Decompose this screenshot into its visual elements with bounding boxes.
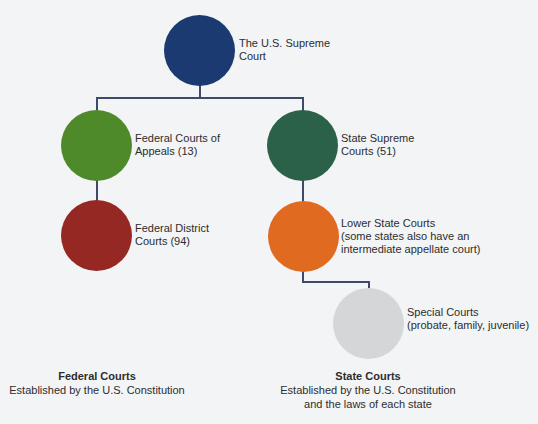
supreme-court-label: The U.S. Supreme Court [239,37,330,63]
label-line: Federal Courts of [135,132,220,145]
state-caption-subtitle-2: and the laws of each state [268,397,468,411]
federal-appeals-node [61,110,132,181]
lower-state-node [268,201,339,272]
federal-caption-subtitle: Established by the U.S. Constitution [2,383,192,397]
state-courts-caption: State Courts Established by the U.S. Con… [268,369,468,411]
federal-appeals-label: Federal Courts of Appeals (13) [135,132,220,158]
label-line: Special Courts [407,306,529,319]
label-line: Court [239,50,330,63]
label-line: (probate, family, juvenile) [407,319,529,332]
connector-lower-horizontal [302,281,370,283]
special-courts-label: Special Courts (probate, family, juvenil… [407,306,529,332]
federal-district-label: Federal District Courts (94) [135,222,209,248]
connector-to-appeals [96,97,98,111]
label-line: intermediate appellate court) [341,243,480,256]
label-line: The U.S. Supreme [239,37,330,50]
federal-caption-title: Federal Courts [2,369,192,383]
label-line: (some states also have an [341,230,480,243]
federal-courts-caption: Federal Courts Established by the U.S. C… [2,369,192,397]
supreme-court-node [164,15,235,86]
label-line: Appeals (13) [135,145,220,158]
special-courts-node [333,288,404,359]
label-line: Federal District [135,222,209,235]
connector-to-state-supreme [302,97,304,111]
lower-state-label: Lower State Courts (some states also hav… [341,217,480,256]
label-line: Courts (51) [341,145,414,158]
federal-district-node [61,200,132,271]
label-line: Lower State Courts [341,217,480,230]
state-supreme-label: State Supreme Courts (51) [341,132,414,158]
label-line: Courts (94) [135,235,209,248]
connector-state-supreme-to-lower [302,180,304,202]
state-caption-title: State Courts [268,369,468,383]
label-line: State Supreme [341,132,414,145]
connector-appeals-to-district [96,180,98,201]
connector-horizontal-top [96,97,304,99]
state-caption-subtitle-1: Established by the U.S. Constitution [268,383,468,397]
state-supreme-node [267,110,338,181]
